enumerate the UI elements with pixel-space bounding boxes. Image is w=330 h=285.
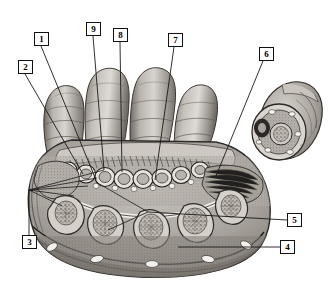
- label-box-3[interactable]: 3: [22, 235, 37, 249]
- label-box-5[interactable]: 5: [287, 213, 302, 227]
- label-box-2[interactable]: 2: [18, 60, 33, 74]
- label-box-6[interactable]: 6: [259, 47, 274, 61]
- label-box-9[interactable]: 9: [86, 22, 101, 36]
- label-box-7[interactable]: 7: [168, 33, 183, 47]
- label-box-4[interactable]: 4: [280, 240, 295, 254]
- label-box-8[interactable]: 8: [113, 28, 128, 42]
- figure-canvas: 1 2 3 4 5 6 7 8 9: [0, 0, 330, 285]
- label-box-1[interactable]: 1: [34, 32, 49, 46]
